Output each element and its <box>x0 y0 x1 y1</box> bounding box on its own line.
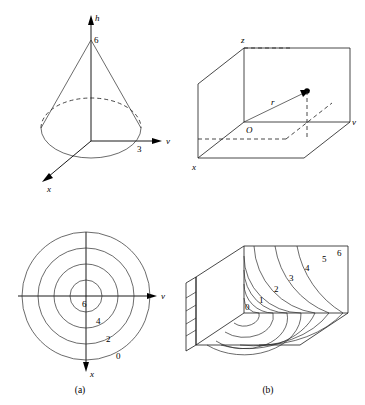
box-top-left-edge <box>198 48 244 84</box>
surf-label-3: 3 <box>289 273 294 283</box>
surf-arc-5-flap <box>186 305 196 311</box>
surf-arc-6-flap <box>186 292 196 298</box>
level-surfaces-box: 0 1 2 3 4 5 6 <box>186 246 348 355</box>
box-floor-left-diagonal <box>198 122 244 158</box>
surf-arc-5-back <box>275 246 329 313</box>
textbook-figure-svg: h v x 6 3 6 4 2 0 v x <box>0 0 365 405</box>
surf-floor-right-edge <box>300 313 348 345</box>
caption-b: (b) <box>262 385 273 396</box>
surf-label-4: 4 <box>305 263 310 273</box>
h-axis-arrowhead <box>88 15 94 25</box>
surf-left-flap <box>186 277 196 351</box>
level-v-axis-arrowhead <box>147 293 157 299</box>
v-axis-arrowhead <box>152 138 162 144</box>
level-curves-plane: 6 4 2 0 v x <box>18 232 165 379</box>
box-hidden-floor-edge-right <box>286 103 332 139</box>
position-vector-box: z v x O r <box>191 35 356 172</box>
surf-arc-2-back <box>244 270 287 313</box>
box-floor-right-edge <box>304 122 350 158</box>
figure-root: h v x 6 3 6 4 2 0 v x <box>0 0 365 405</box>
cone-graph: h v x 6 3 <box>41 13 170 194</box>
x-axis-line <box>48 141 91 177</box>
origin-label: O <box>246 125 253 135</box>
surf-contours-floor <box>207 313 343 355</box>
surf-contours-leftflap <box>186 292 196 336</box>
box-v-axis-label: v <box>352 117 356 127</box>
surf-arc-3-flap <box>186 330 196 336</box>
caption-a: (a) <box>75 385 86 396</box>
contour-label-6: 6 <box>82 299 87 309</box>
h-axis-label: h <box>95 13 100 23</box>
x-axis-label: x <box>46 184 51 194</box>
surf-floor-left-diagonal <box>196 313 244 345</box>
level-v-axis-label: v <box>161 291 165 301</box>
cone-radius-value: 3 <box>137 144 142 154</box>
z-axis-label: z <box>240 35 245 45</box>
level-x-axis-arrowhead <box>83 362 89 372</box>
box-back-wall <box>244 48 350 122</box>
surf-top-left-edge <box>196 246 244 277</box>
surf-arc-4-flap <box>186 318 196 324</box>
vector-r-line <box>244 92 306 122</box>
surf-label-1: 1 <box>259 295 264 305</box>
box-x-axis-label: x <box>191 162 196 172</box>
contour-label-2: 2 <box>106 334 111 344</box>
vector-r-label: r <box>271 97 275 107</box>
surf-label-6: 6 <box>337 248 342 258</box>
v-axis-label: v <box>166 136 170 146</box>
cone-apex-value: 6 <box>94 35 99 45</box>
contour-label-4: 4 <box>96 316 101 326</box>
level-x-axis-label: x <box>89 369 94 379</box>
contour-label-0: 0 <box>116 351 121 361</box>
surf-label-5: 5 <box>322 254 327 264</box>
surf-arc-0-floor <box>234 313 259 326</box>
cone-slant-left <box>41 40 91 128</box>
cone-slant-right <box>91 40 141 128</box>
surf-label-2: 2 <box>274 284 279 294</box>
surf-label-0: 0 <box>245 302 250 312</box>
